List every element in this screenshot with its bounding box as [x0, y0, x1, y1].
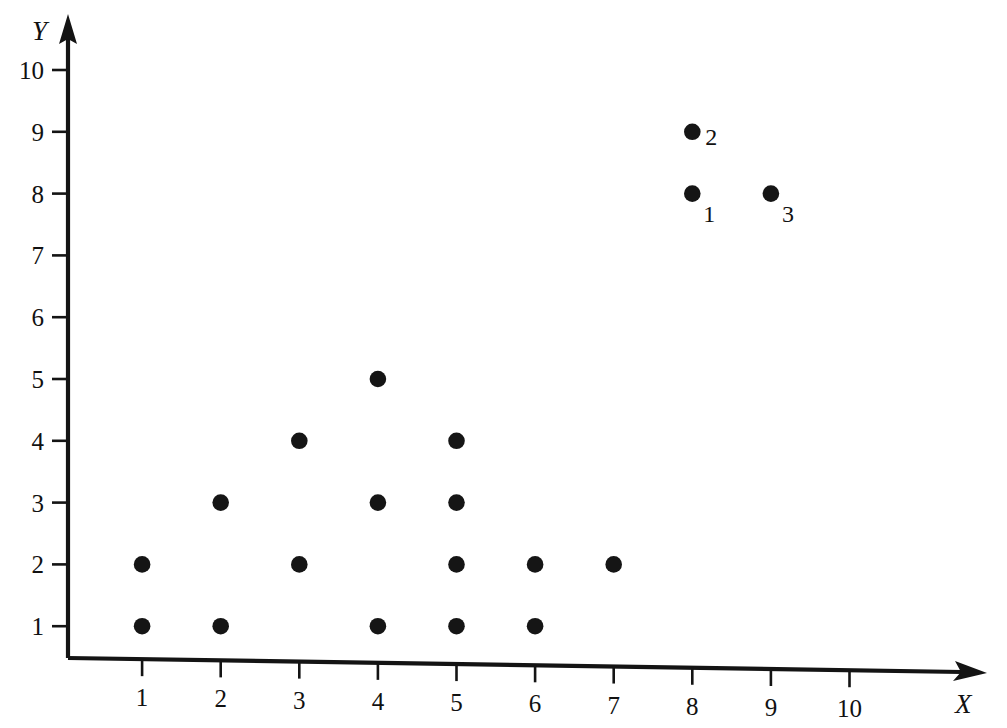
data-point-label: 3 — [782, 201, 794, 227]
scatter-plot-figure: Y X 12345678910 12345678910 123 — [0, 0, 1007, 728]
x-axis-line — [68, 658, 962, 672]
data-point — [448, 556, 465, 573]
data-point — [370, 494, 387, 511]
data-point-label: 2 — [705, 124, 717, 150]
data-point — [448, 494, 465, 511]
x-tick-label: 9 — [765, 694, 778, 721]
data-point — [291, 433, 308, 450]
x-tick-label: 8 — [686, 693, 699, 720]
y-axis-ticks: 12345678910 — [19, 57, 68, 640]
x-tick-label: 6 — [529, 690, 542, 717]
y-tick-label: 3 — [32, 490, 45, 517]
data-point — [448, 433, 465, 450]
data-point — [763, 185, 780, 202]
data-point — [448, 618, 465, 635]
x-tick-label: 10 — [837, 695, 862, 722]
x-tick-label: 2 — [214, 685, 227, 712]
data-point — [134, 618, 151, 635]
x-tick-label: 1 — [136, 684, 149, 711]
data-point — [134, 556, 151, 573]
data-point-label: 1 — [703, 201, 715, 227]
y-tick-label: 7 — [32, 242, 45, 269]
plot-canvas: Y X 12345678910 12345678910 123 — [0, 0, 1007, 728]
x-tick-label: 3 — [293, 687, 306, 714]
y-axis-label: Y — [32, 16, 50, 46]
data-point — [527, 556, 544, 573]
y-tick-label: 8 — [32, 181, 45, 208]
y-tick-label: 4 — [32, 428, 45, 455]
data-point — [527, 618, 544, 635]
y-tick-label: 9 — [32, 119, 45, 146]
data-point — [370, 371, 387, 388]
y-tick-label: 6 — [32, 304, 45, 331]
x-tick-label: 4 — [372, 688, 385, 715]
data-point — [291, 556, 308, 573]
data-point — [370, 618, 387, 635]
data-point — [684, 124, 701, 141]
data-point — [212, 618, 229, 635]
x-tick-label: 5 — [450, 689, 463, 716]
x-tick-label: 7 — [607, 692, 620, 719]
y-tick-label: 2 — [32, 551, 45, 578]
y-tick-label: 5 — [32, 366, 45, 393]
data-point-group: 123 — [134, 124, 794, 635]
x-axis-label: X — [954, 689, 973, 719]
y-tick-label: 10 — [19, 57, 44, 84]
y-tick-label: 1 — [32, 613, 45, 640]
data-point — [684, 185, 701, 202]
data-point — [605, 556, 622, 573]
data-point — [212, 494, 229, 511]
